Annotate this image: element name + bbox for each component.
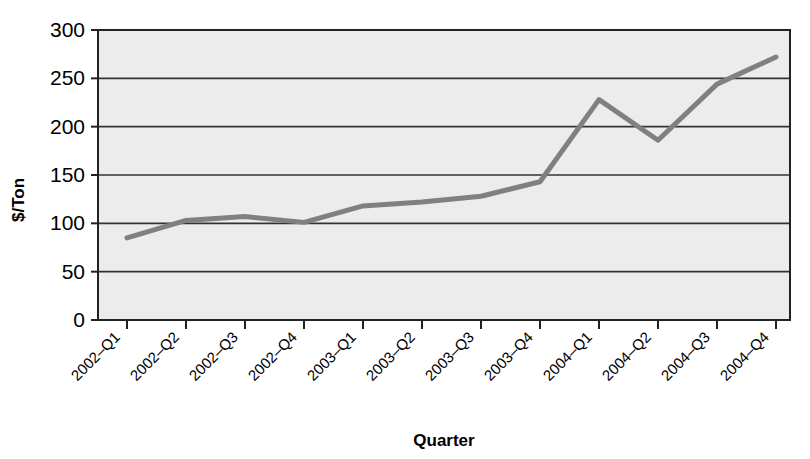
x-axis-tick-label: 2002–Q3 — [185, 328, 241, 384]
x-axis-tick-label: 2002–Q2 — [126, 328, 182, 384]
x-axis-title: Quarter — [413, 431, 475, 450]
x-axis-tick-label: 2003–Q1 — [303, 328, 359, 384]
x-axis-tick-label: 2003–Q4 — [480, 328, 536, 384]
x-axis-tick-label: 2004–Q4 — [716, 328, 772, 384]
y-axis-title: $/Ton — [9, 178, 28, 222]
x-axis-ticks: 2002–Q12002–Q22002–Q32002–Q42003–Q12003–… — [67, 320, 776, 384]
y-axis-tick-label: 100 — [50, 211, 85, 234]
x-axis-tick-label: 2003–Q2 — [362, 328, 418, 384]
x-axis-tick-label: 2004–Q2 — [598, 328, 654, 384]
x-axis-tick-label: 2004–Q1 — [539, 328, 595, 384]
y-axis-tick-label: 300 — [50, 18, 85, 41]
y-axis-ticks: 050100150200250300 — [50, 18, 98, 331]
y-axis-tick-label: 150 — [50, 163, 85, 186]
x-axis-tick-label: 2004–Q3 — [657, 328, 713, 384]
y-axis-tick-label: 250 — [50, 66, 85, 89]
line-chart: 050100150200250300 2002–Q12002–Q22002–Q3… — [0, 0, 810, 459]
x-axis-tick-label: 2002–Q4 — [244, 328, 300, 384]
chart-page: 050100150200250300 2002–Q12002–Q22002–Q3… — [0, 0, 810, 459]
x-axis-tick-label: 2002–Q1 — [67, 328, 123, 384]
y-axis-tick-label: 50 — [62, 260, 85, 283]
y-axis-tick-label: 200 — [50, 115, 85, 138]
x-axis-tick-label: 2003–Q3 — [421, 328, 477, 384]
y-axis-tick-label: 0 — [73, 308, 85, 331]
